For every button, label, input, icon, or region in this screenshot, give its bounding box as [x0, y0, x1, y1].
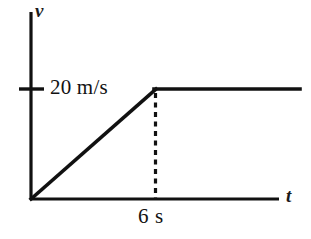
velocity-ramp-segment	[31, 89, 156, 199]
x-tick-label-6s: 6 s	[138, 206, 164, 227]
y-tick-label-20ms: 20 m/s	[50, 77, 108, 98]
y-axis-label: v	[35, 1, 43, 20]
velocity-time-graph: v t 20 m/s 6 s	[0, 0, 311, 239]
x-axis-label: t	[286, 186, 291, 205]
